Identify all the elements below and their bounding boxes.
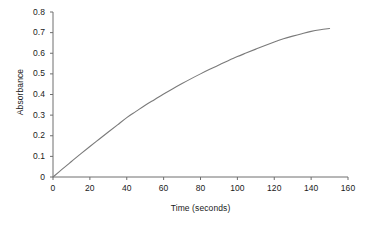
x-tick-label: 0 bbox=[38, 183, 68, 194]
plot-area bbox=[0, 0, 372, 230]
x-tick-label: 160 bbox=[333, 183, 363, 194]
absorbance-curve bbox=[53, 29, 330, 178]
x-tick-label: 120 bbox=[259, 183, 289, 194]
x-tick-label: 80 bbox=[186, 183, 216, 194]
x-axis-title: Time (seconds) bbox=[53, 203, 348, 213]
x-tick-label: 60 bbox=[149, 183, 179, 194]
x-tick-label: 20 bbox=[75, 183, 105, 194]
x-tick-label: 100 bbox=[222, 183, 252, 194]
absorbance-time-chart: 00.10.20.30.40.50.60.70.8 02040608010012… bbox=[0, 0, 372, 230]
y-axis-title: Absorbance bbox=[12, 2, 28, 182]
x-tick-label: 40 bbox=[112, 183, 142, 194]
x-tick-label: 140 bbox=[296, 183, 326, 194]
